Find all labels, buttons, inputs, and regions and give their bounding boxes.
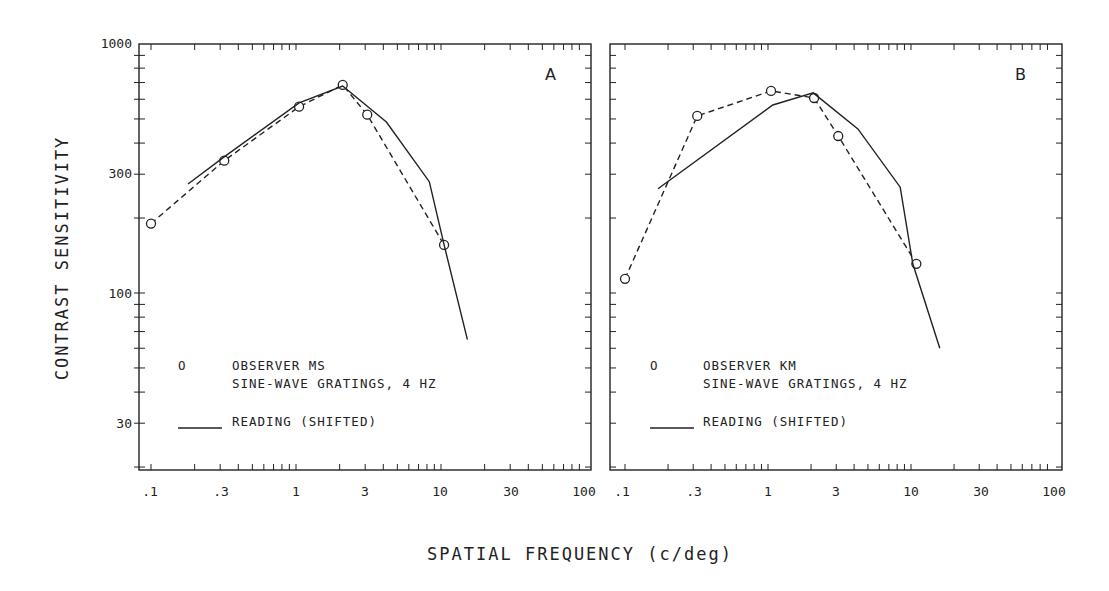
legend-observer: OBSERVER KM [703, 358, 797, 373]
x-tick-label: .3 [686, 484, 702, 499]
x-tick-label: 1 [764, 484, 772, 499]
y-tick-label: 1000 [101, 36, 132, 51]
y-tick-label: 300 [109, 166, 132, 181]
x-tick-label: 3 [361, 484, 369, 499]
x-tick-label: 10 [903, 484, 919, 499]
legend-line-label: READING (SHIFTED) [703, 414, 848, 429]
y-tick-label: 100 [109, 286, 132, 301]
legend-marker-symbol: O [178, 358, 187, 373]
legend-line-label: READING (SHIFTED) [232, 414, 377, 429]
x-tick-label: 30 [503, 484, 519, 499]
x-tick-label: .3 [213, 484, 229, 499]
x-tick-label: .1 [614, 484, 630, 499]
x-tick-label: 30 [973, 484, 989, 499]
panel-a-letter: A [545, 65, 556, 84]
legend-marker-symbol: O [650, 358, 659, 373]
y-tick-label: 30 [116, 416, 132, 431]
panel-b-letter: B [1015, 65, 1026, 84]
text-layer: 1000 300 100 30 .1 .3 1 3 10 30 100 .1 .… [0, 0, 1109, 591]
x-tick-label: 100 [572, 484, 595, 499]
x-tick-label: 1 [292, 484, 300, 499]
x-tick-label: 10 [432, 484, 448, 499]
x-tick-label: .1 [142, 484, 158, 499]
y-axis-title: CONTRAST SENSITIVITY [52, 136, 72, 381]
x-tick-label: 100 [1042, 484, 1065, 499]
legend-stimulus: SINE-WAVE GRATINGS, 4 HZ [703, 376, 908, 391]
x-axis-title: SPATIAL FREQUENCY (c/deg) [427, 544, 733, 564]
legend-observer: OBSERVER MS [232, 358, 326, 373]
x-tick-label: 3 [832, 484, 840, 499]
legend-stimulus: SINE-WAVE GRATINGS, 4 HZ [232, 376, 437, 391]
